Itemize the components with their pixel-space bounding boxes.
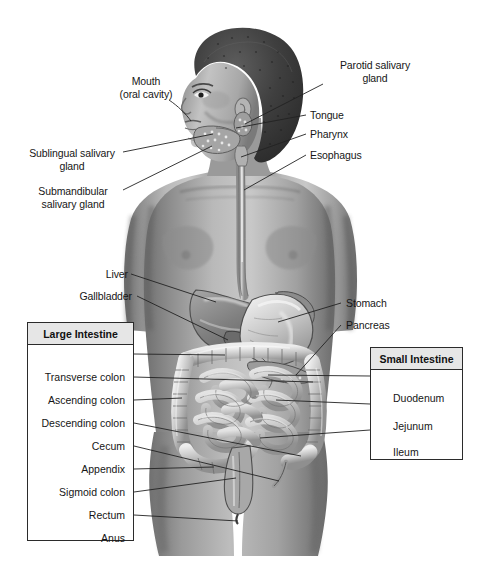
si-item-ileum: Ileum: [393, 446, 419, 458]
callout-parotid-salivary-gland: Parotid salivary gland: [326, 59, 424, 84]
li-item-appendix: Appendix: [81, 463, 125, 475]
callout-sublingual-line2: gland: [22, 160, 122, 173]
callout-mouth-line2: (oral cavity): [104, 88, 188, 101]
li-item-ascending-colon: Ascending colon: [48, 394, 125, 406]
li-item-anus: Anus: [101, 532, 125, 544]
callout-submandibular-salivary-gland: Submandibular salivary gland: [24, 185, 122, 210]
large-intestine-box-body: Transverse colon Ascending colon Descend…: [28, 345, 133, 541]
si-item-jejunum: Jejunum: [393, 420, 433, 432]
li-item-sigmoid-colon: Sigmoid colon: [59, 486, 125, 498]
callout-mouth: Mouth (oral cavity): [104, 75, 188, 100]
callout-submandibular-line2: salivary gland: [24, 198, 122, 211]
callout-pancreas: Pancreas: [346, 319, 390, 332]
callout-mouth-line1: Mouth: [104, 75, 188, 88]
callout-liver: Liver: [58, 268, 128, 281]
callout-sublingual-salivary-gland: Sublingual salivary gland: [22, 147, 122, 172]
callout-parotid-line1: Parotid salivary: [326, 59, 424, 72]
large-intestine-box-title: Large Intestine: [28, 323, 133, 345]
small-intestine-box: Small Intestine Duodenum Jejunum Ileum: [370, 347, 463, 460]
callout-esophagus: Esophagus: [310, 149, 362, 162]
callout-gallbladder: Gallbladder: [44, 290, 132, 303]
li-item-descending-colon: Descending colon: [42, 417, 125, 429]
large-intestine-box: Large Intestine Transverse colon Ascendi…: [27, 322, 134, 541]
li-item-cecum: Cecum: [92, 440, 125, 452]
callout-stomach: Stomach: [346, 297, 387, 310]
si-item-duodenum: Duodenum: [393, 392, 444, 404]
li-item-rectum: Rectum: [89, 509, 125, 521]
callout-tongue: Tongue: [310, 109, 344, 122]
callout-sublingual-line1: Sublingual salivary: [22, 147, 122, 160]
callout-parotid-line2: gland: [326, 72, 424, 85]
small-intestine-box-body: Duodenum Jejunum Ileum: [371, 370, 462, 460]
diagram-canvas: Mouth (oral cavity) Sublingual salivary …: [0, 0, 477, 568]
li-item-transverse-colon: Transverse colon: [45, 371, 125, 383]
callout-pharynx: Pharynx: [310, 128, 348, 141]
small-intestine-box-title: Small Intestine: [371, 348, 462, 370]
callout-submandibular-line1: Submandibular: [24, 185, 122, 198]
